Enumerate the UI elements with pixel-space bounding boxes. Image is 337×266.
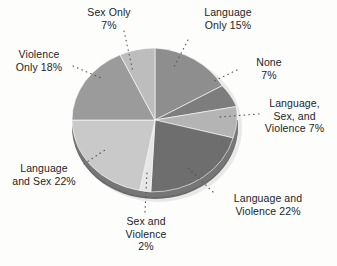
label-language-and-violence: Language and Violence 22% — [213, 192, 323, 217]
label-language-sex-violence: Language, Sex, and Violence 7% — [252, 97, 337, 135]
label-violence-only: Violence Only 18% — [2, 48, 76, 73]
pie-slice-group — [72, 48, 237, 192]
label-sex-and-violence: Sex and Violence 2% — [110, 215, 182, 253]
pie-chart-figure: Sex Only 7% Language Only 15% None 7% La… — [0, 0, 337, 266]
label-language-and-sex: Language and Sex 22% — [1, 162, 87, 187]
label-sex-only: Sex Only 7% — [73, 6, 145, 31]
label-language-only: Language Only 15% — [187, 6, 269, 31]
label-none: None 7% — [240, 56, 298, 81]
